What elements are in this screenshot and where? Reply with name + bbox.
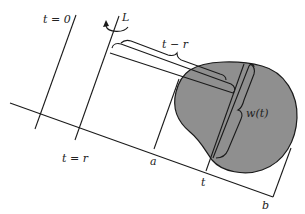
label-t-minus-r: t − r <box>162 38 189 51</box>
label-width: w(t) <box>246 107 268 120</box>
t-zero-line <box>35 15 76 129</box>
label-point-t: t <box>201 176 206 189</box>
label-rotation-axis: L <box>121 11 129 24</box>
shaded-region <box>175 62 297 173</box>
rotation-arrow-icon <box>106 26 128 31</box>
a-line <box>154 79 179 149</box>
diagram-canvas: t = 0 L t − r w(t) t = r a t b <box>0 0 305 214</box>
label-point-b: b <box>262 199 269 212</box>
rotation-arrowhead-icon <box>103 20 109 27</box>
label-point-a: a <box>150 155 157 168</box>
label-t-equals-r: t = r <box>62 152 89 165</box>
label-t-zero: t = 0 <box>43 13 71 26</box>
rotation-axis-line <box>75 16 119 140</box>
